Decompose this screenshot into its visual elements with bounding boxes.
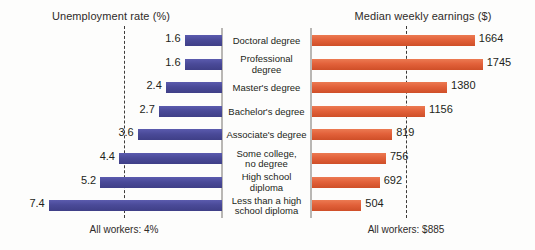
unemployment-value-label: 2.4	[147, 79, 162, 91]
left-panel-title: Unemployment rate (%)	[0, 10, 222, 22]
category-label: Professionaldegree	[224, 53, 309, 77]
earnings-bar	[312, 153, 386, 164]
chart-row: 3.6Associate's degree819	[0, 123, 535, 147]
earnings-bar	[312, 129, 392, 140]
unemployment-value-label: 7.4	[29, 197, 44, 209]
chart-row: 4.4Some college,no degree756	[0, 147, 535, 171]
chart-row: 2.7Bachelor's degree1156	[0, 100, 535, 124]
unemployment-bar	[159, 106, 222, 117]
left-average-label: All workers: 4%	[90, 224, 159, 235]
category-label: Master's degree	[224, 76, 309, 100]
unemployment-value-label: 5.2	[81, 174, 96, 186]
unemployment-value-label: 3.6	[118, 126, 133, 138]
unemployment-bar	[49, 200, 222, 211]
unemployment-value-label: 1.6	[165, 32, 180, 44]
unemployment-bar	[185, 59, 222, 70]
category-label: High schooldiploma	[224, 171, 309, 195]
earnings-bar	[312, 200, 361, 211]
right-average-label: All workers: $885	[368, 224, 445, 235]
unemployment-value-label: 4.4	[100, 150, 115, 162]
earnings-bar	[312, 59, 483, 70]
earnings-value-label: 1664	[479, 32, 503, 44]
chart-row: 1.6Professionaldegree1745	[0, 53, 535, 77]
earnings-value-label: 692	[384, 174, 402, 186]
unemployment-bar	[100, 177, 222, 188]
earnings-value-label: 1156	[429, 103, 453, 115]
earnings-value-label: 1745	[487, 56, 511, 68]
earnings-value-label: 504	[365, 197, 383, 209]
unemployment-value-label: 2.7	[139, 103, 154, 115]
chart-row: 2.4Master's degree1380	[0, 76, 535, 100]
category-label: Doctoral degree	[224, 29, 309, 53]
chart-row: 5.2High schooldiploma692	[0, 171, 535, 195]
unemployment-value-label: 1.6	[165, 56, 180, 68]
earnings-bar	[312, 35, 475, 46]
category-label: Associate's degree	[224, 123, 309, 147]
right-panel-title: Median weekly earnings ($)	[311, 10, 535, 22]
earnings-bar	[312, 106, 425, 117]
unemployment-bar	[166, 82, 222, 93]
earnings-value-label: 1380	[451, 79, 475, 91]
earnings-bar	[312, 177, 380, 188]
earnings-value-label: 756	[390, 150, 408, 162]
chart-row: 7.4Less than a highschool diploma504	[0, 194, 535, 218]
category-label: Less than a highschool diploma	[224, 194, 309, 218]
chart-row: 1.6Doctoral degree1664	[0, 29, 535, 53]
unemployment-bar	[138, 129, 222, 140]
earnings-bar	[312, 82, 447, 93]
unemployment-bar	[119, 153, 222, 164]
earnings-value-label: 819	[396, 126, 414, 138]
category-label: Some college,no degree	[224, 147, 309, 171]
category-label: Bachelor's degree	[224, 100, 309, 124]
unemployment-bar	[185, 35, 222, 46]
education-pay-chart: Unemployment rate (%) Median weekly earn…	[0, 0, 535, 250]
